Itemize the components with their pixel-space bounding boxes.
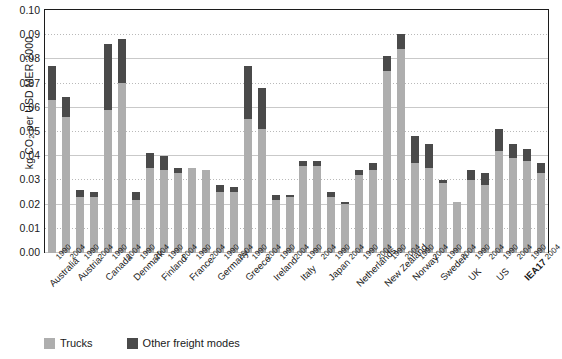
bar-segment-other-freight-modes: [495, 129, 503, 151]
bar-new-zealand-1990: [383, 56, 391, 253]
y-axis-tick-label: 0.06: [0, 102, 40, 112]
x-axis-country-label-ireland: Ireland: [271, 254, 299, 282]
x-axis-country-label-canada: Canada: [103, 251, 134, 282]
bar-segment-other-freight-modes: [537, 163, 545, 173]
x-axis-country-label-us: US: [494, 266, 511, 283]
bar-iea17-1990: [523, 149, 531, 253]
bar-segment-trucks: [299, 166, 307, 253]
bar-segment-trucks: [495, 151, 503, 253]
bar-segment-other-freight-modes: [327, 192, 335, 197]
y-axis-tick-labels: 0.100.090.080.070.060.050.040.030.020.01…: [0, 9, 40, 253]
bar-iea17-2004: [537, 163, 545, 253]
bar-segment-trucks: [397, 49, 405, 253]
bar-segment-other-freight-modes: [369, 163, 377, 170]
bar-segment-trucks: [523, 161, 531, 253]
bar-netherlands-1990: [355, 170, 363, 253]
bar-segment-other-freight-modes: [286, 195, 294, 197]
bar-us-2004: [509, 144, 517, 253]
bar-segment-trucks: [118, 83, 126, 253]
bar-segment-trucks: [202, 170, 210, 253]
bar-segment-other-freight-modes: [62, 97, 70, 116]
bar-segment-trucks: [383, 71, 391, 253]
y-axis-tick-label: 0.05: [0, 126, 40, 136]
bar-greece-1990: [244, 66, 252, 253]
x-axis-country-label-uk: UK: [466, 266, 483, 283]
bar-denmark-2004: [146, 153, 154, 253]
bar-segment-other-freight-modes: [341, 202, 349, 204]
bar-segment-other-freight-modes: [118, 39, 126, 83]
y-axis-tick-label: 0.09: [0, 29, 40, 39]
bar-segment-trucks: [160, 170, 168, 253]
bar-series-container: [45, 10, 548, 253]
bar-segment-other-freight-modes: [383, 56, 391, 71]
y-axis-tick-label: 0.00: [0, 247, 40, 257]
bar-segment-other-freight-modes: [132, 192, 140, 199]
bar-segment-trucks: [258, 129, 266, 253]
bar-segment-other-freight-modes: [90, 192, 98, 197]
legend: Trucks Other freight modes: [44, 335, 240, 351]
legend-item-trucks: Trucks: [44, 337, 93, 349]
bar-segment-trucks: [411, 163, 419, 253]
bar-australia-1990: [48, 66, 56, 253]
x-axis-country-label-austria: Austria: [75, 254, 104, 283]
bar-norway-1990: [411, 136, 419, 253]
x-axis-country-label-japan: Japan: [326, 257, 352, 283]
bar-italy-2004: [313, 161, 321, 253]
bar-segment-trucks: [244, 119, 252, 253]
legend-label-trucks: Trucks: [60, 337, 93, 349]
bar-canada-1990: [104, 44, 112, 253]
y-axis-tick-label: 0.02: [0, 199, 40, 209]
bar-segment-other-freight-modes: [230, 187, 238, 192]
bar-segment-other-freight-modes: [313, 161, 321, 166]
y-axis-tick-label: 0.01: [0, 223, 40, 233]
bar-us-1990: [495, 129, 503, 253]
y-axis-tick-label: 0.08: [0, 53, 40, 63]
bar-segment-other-freight-modes: [481, 173, 489, 185]
bar-segment-other-freight-modes: [216, 185, 224, 192]
bar-segment-other-freight-modes: [272, 195, 280, 200]
bar-segment-other-freight-modes: [397, 34, 405, 49]
legend-swatch-trucks: [44, 338, 55, 349]
bar-segment-trucks: [369, 170, 377, 253]
x-axis-country-label-france: France: [187, 254, 216, 283]
bar-greece-2004: [258, 88, 266, 253]
bar-segment-other-freight-modes: [174, 168, 182, 173]
bar-france-1990: [188, 168, 196, 253]
bar-segment-other-freight-modes: [160, 156, 168, 171]
bar-netherlands-2004: [369, 163, 377, 253]
legend-swatch-other-freight-modes: [127, 338, 138, 349]
bar-segment-other-freight-modes: [76, 190, 84, 197]
bar-segment-other-freight-modes: [523, 149, 531, 161]
y-axis-tick-label: 0.03: [0, 174, 40, 184]
bar-segment-trucks: [48, 100, 56, 253]
bar-segment-trucks: [425, 168, 433, 253]
bar-segment-other-freight-modes: [467, 170, 475, 180]
bar-segment-trucks: [174, 173, 182, 253]
bar-segment-other-freight-modes: [439, 180, 447, 182]
bar-finland-2004: [174, 168, 182, 253]
bar-segment-other-freight-modes: [48, 66, 56, 100]
x-axis-country-label-australia: Australia: [47, 255, 81, 289]
bar-segment-trucks: [313, 166, 321, 253]
bar-segment-other-freight-modes: [509, 144, 517, 159]
bar-canada-2004: [118, 39, 126, 253]
bar-segment-other-freight-modes: [411, 136, 419, 163]
bar-segment-other-freight-modes: [355, 170, 363, 175]
bar-segment-other-freight-modes: [258, 88, 266, 129]
bar-italy-1990: [299, 161, 307, 253]
bar-segment-other-freight-modes: [104, 44, 112, 110]
y-axis-tick-label: 0.04: [0, 150, 40, 160]
bar-norway-2004: [425, 144, 433, 253]
x-axis-country-label-italy: Italy: [298, 263, 318, 283]
x-axis-country-label-iea17: IEA17: [522, 256, 548, 282]
bar-segment-trucks: [62, 117, 70, 253]
bar-france-2004: [202, 170, 210, 253]
bar-segment-trucks: [509, 158, 517, 253]
bar-segment-other-freight-modes: [146, 153, 154, 168]
bar-segment-other-freight-modes: [299, 161, 307, 166]
bar-segment-trucks: [537, 173, 545, 253]
bar-uk-1990: [467, 170, 475, 253]
bar-segment-trucks: [146, 168, 154, 253]
bar-finland-1990: [160, 156, 168, 253]
